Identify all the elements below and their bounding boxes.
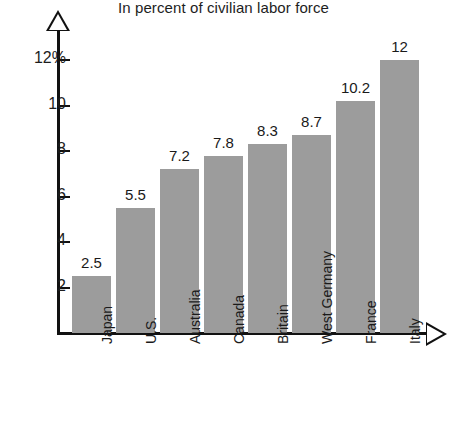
bar (116, 208, 155, 333)
x-axis-category-label: Italy (407, 318, 423, 344)
x-axis-category-label: France (363, 300, 379, 344)
bar-value-label: 2.5 (64, 254, 119, 271)
y-axis-tick-label: 8 (57, 140, 66, 158)
x-axis-category-label: Japan (99, 306, 115, 344)
x-axis-arrow-icon (426, 322, 447, 346)
y-axis-tick-label: 4 (57, 231, 66, 249)
chart-title: In percent of civilian labor force (118, 0, 329, 16)
y-axis-tick-label: 12% (34, 49, 66, 67)
y-axis-tick-label: 10 (48, 95, 66, 113)
y-axis-arrow-icon (46, 10, 70, 31)
y-axis-tick-label: 2 (57, 277, 66, 295)
x-axis-category-label: Australia (187, 290, 203, 344)
bar-value-label: 8.7 (284, 113, 339, 130)
x-axis-category-label: Britain (275, 304, 291, 344)
bar-value-label: 10.2 (328, 79, 383, 96)
bar (336, 101, 375, 333)
x-axis-category-label: Canada (231, 295, 247, 344)
x-axis-category-label: West Germany (319, 251, 335, 344)
y-axis-tick-label: 6 (57, 186, 66, 204)
x-axis-category-label: U.S. (143, 317, 159, 344)
bar (380, 60, 419, 333)
bar-chart: In percent of civilian labor force 24681… (0, 0, 465, 429)
bar-value-label: 12 (372, 38, 427, 55)
bar-value-label: 5.5 (108, 186, 163, 203)
